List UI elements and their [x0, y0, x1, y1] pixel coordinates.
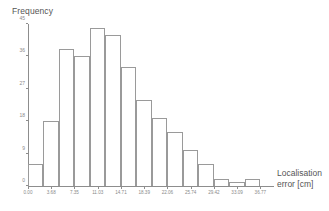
x-tick-label: 3.68: [47, 190, 56, 195]
x-tick-label: 11.03: [92, 190, 103, 195]
x-tick-mark: [98, 186, 99, 189]
x-tick-mark: [214, 186, 215, 189]
y-tick-label: 45: [19, 15, 25, 21]
histogram-bar: [121, 67, 136, 186]
x-tick-mark: [260, 186, 261, 189]
y-tick-mark: [26, 153, 28, 154]
x-tick-label: 33.09: [231, 190, 243, 195]
histogram-bar: [90, 28, 105, 186]
histogram-bar: [136, 100, 151, 186]
histogram-bar: [59, 49, 74, 186]
histogram-bar: [43, 121, 58, 186]
histogram-bar: [214, 179, 229, 186]
histogram-bar: [198, 164, 213, 186]
x-tick-mark: [121, 186, 122, 189]
x-tick-label: 18.39: [138, 190, 150, 195]
x-tick-mark: [74, 186, 75, 189]
x-tick-label: 7.35: [70, 190, 79, 195]
x-tick-mark: [28, 186, 29, 189]
histogram-figure: Frequency Localisation error [cm] 091827…: [0, 0, 329, 211]
x-tick-mark: [237, 186, 238, 189]
y-tick-mark: [26, 88, 28, 89]
y-tick-label: 0: [22, 177, 25, 183]
y-axis-title: Frequency: [12, 6, 53, 16]
histogram-bar: [74, 56, 89, 186]
plot-area: 0918273645: [28, 24, 272, 186]
x-axis-title-line1: Localisation: [277, 168, 322, 178]
x-tick-label: 36.77: [255, 190, 267, 195]
x-tick-label: 25.74: [185, 190, 197, 195]
y-tick-label: 36: [19, 47, 25, 53]
x-tick-mark: [167, 186, 168, 189]
histogram-bar: [28, 164, 43, 186]
x-tick-label: 0.00: [24, 190, 33, 195]
histogram-bar: [152, 118, 167, 186]
x-tick-mark: [191, 186, 192, 189]
x-tick-label: 14.71: [115, 190, 127, 195]
x-axis-title: Localisation error [cm]: [277, 168, 322, 190]
histogram-bar: [183, 150, 198, 186]
x-axis-title-line2: error [cm]: [277, 179, 322, 190]
x-tick-mark: [51, 186, 52, 189]
y-tick-mark: [26, 55, 28, 56]
x-tick-label: 22.06: [162, 190, 174, 195]
histogram-bar: [105, 35, 120, 186]
y-tick-mark: [26, 120, 28, 121]
x-tick-mark: [144, 186, 145, 189]
histogram-bar: [245, 179, 260, 186]
y-tick-label: 9: [22, 145, 25, 151]
y-tick-label: 18: [19, 112, 25, 118]
y-tick-mark: [26, 23, 28, 24]
y-tick-label: 27: [19, 80, 25, 86]
x-tick-label: 29.42: [208, 190, 220, 195]
histogram-bar: [167, 132, 182, 186]
